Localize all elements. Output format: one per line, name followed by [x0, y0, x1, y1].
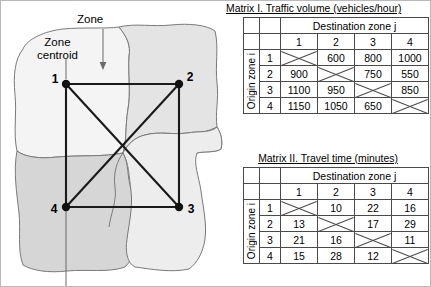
- matrix-1-cell: 650: [355, 98, 392, 114]
- matrix-1-row-label: 4: [260, 98, 281, 114]
- matrix-1-col-label: 3: [355, 34, 392, 50]
- matrix-1-origin-header: Origin zone i: [244, 50, 260, 114]
- zone-polygon-lower-left: [15, 151, 135, 272]
- matrix-1-origin-header-text: Origin zone i: [246, 53, 257, 109]
- node-1[interactable]: [62, 80, 70, 88]
- matrix-1-row-label: 2: [260, 66, 281, 82]
- matrix-1-cell: 1150: [281, 98, 318, 114]
- table-row: Origin zone i 1 600 800 1000: [244, 50, 429, 66]
- node-label-3: 3: [188, 202, 195, 216]
- matrix-2-cell: 16: [392, 200, 429, 216]
- matrix-2-destination-header: Destination zone j: [281, 168, 429, 184]
- matrix-2-diagonal-cell: [281, 200, 318, 216]
- matrix-2-cell: 11: [392, 232, 429, 248]
- matrix-2-col-index-row: 1 2 3 4: [244, 184, 429, 200]
- matrix-1-diagonal-cell: [392, 98, 429, 114]
- annotation-zone-centroid-label: Zone centroid: [37, 36, 78, 62]
- matrix-1-cell: 900: [281, 66, 318, 82]
- matrix-1-cell: 950: [318, 82, 355, 98]
- matrix-2-cell: 13: [281, 216, 318, 232]
- corner-blank: [244, 184, 260, 200]
- matrix-2-cell: 21: [281, 232, 318, 248]
- matrix-1-cell: 800: [355, 50, 392, 66]
- matrix-2-col-label: 2: [318, 184, 355, 200]
- matrix-1-col-header-row: Destination zone j: [244, 18, 429, 34]
- table-row: 4 15 28 12: [244, 248, 429, 264]
- matrix-1-cell: 1100: [281, 82, 318, 98]
- corner-blank: [260, 184, 281, 200]
- corner-blank: [244, 34, 260, 50]
- matrix-2-diagonal-cell: [355, 232, 392, 248]
- node-label-2: 2: [187, 70, 194, 84]
- corner-blank: [244, 18, 260, 34]
- matrix-2-cell: 17: [355, 216, 392, 232]
- matrix-1-col-index-row: 1 2 3 4: [244, 34, 429, 50]
- matrix-2-origin-header-text: Origin zone i: [246, 203, 257, 259]
- matrix-1-title: Matrix I. Traffic volume (vehicles/hour): [225, 3, 431, 14]
- matrix-2-cell: 22: [355, 200, 392, 216]
- matrix-1-col-label: 2: [318, 34, 355, 50]
- matrix-2-cell: 16: [318, 232, 355, 248]
- matrix-2-cell: 15: [281, 248, 318, 264]
- node-label-4: 4: [51, 202, 58, 216]
- matrix-2-col-label: 1: [281, 184, 318, 200]
- corner-blank: [260, 34, 281, 50]
- matrix-1-destination-header: Destination zone j: [281, 18, 429, 34]
- corner-blank: [244, 168, 260, 184]
- matrix-1-cell: 1000: [392, 50, 429, 66]
- matrix-1-row-label: 1: [260, 50, 281, 66]
- diagram-canvas: 1 2 3 4: [1, 1, 226, 287]
- table-row: 2 13 17 29: [244, 216, 429, 232]
- matrix-2-cell: 10: [318, 200, 355, 216]
- zone-network-diagram: 1 2 3 4 Zone Zone centroid: [1, 1, 226, 287]
- corner-blank: [260, 18, 281, 34]
- matrix-1-diagonal-cell: [281, 50, 318, 66]
- matrix-2-row-label: 4: [260, 248, 281, 264]
- matrix-travel-time: Matrix II. Travel time (minutes) Destina…: [225, 153, 431, 264]
- matrix-2-cell: 28: [318, 248, 355, 264]
- matrix-2-cell: 29: [392, 216, 429, 232]
- matrix-1-diagonal-cell: [318, 66, 355, 82]
- matrix-2-diagonal-cell: [392, 248, 429, 264]
- matrix-2-row-label: 2: [260, 216, 281, 232]
- matrix-2-col-label: 4: [392, 184, 429, 200]
- matrix-2-col-label: 3: [355, 184, 392, 200]
- node-2[interactable]: [175, 80, 183, 88]
- matrix-1-cell: 850: [392, 82, 429, 98]
- corner-blank: [260, 168, 281, 184]
- matrix-1-table: Destination zone j 1 2 3 4 Origin zone i…: [243, 17, 429, 114]
- matrix-traffic-volume: Matrix I. Traffic volume (vehicles/hour)…: [225, 3, 431, 114]
- matrix-1-row-label: 3: [260, 82, 281, 98]
- matrix-1-col-label: 4: [392, 34, 429, 50]
- annotation-zone-label: Zone: [77, 13, 103, 26]
- matrix-1-col-label: 1: [281, 34, 318, 50]
- matrix-2-row-label: 3: [260, 232, 281, 248]
- table-row: 3 1100 950 850: [244, 82, 429, 98]
- matrix-1-cell: 750: [355, 66, 392, 82]
- matrix-1-cell: 1050: [318, 98, 355, 114]
- matrix-2-cell: 12: [355, 248, 392, 264]
- node-label-1: 1: [52, 72, 59, 86]
- node-3[interactable]: [175, 203, 183, 211]
- matrix-1-cell: 550: [392, 66, 429, 82]
- matrix-2-row-label: 1: [260, 200, 281, 216]
- table-row: 2 900 750 550: [244, 66, 429, 82]
- matrix-2-table: Destination zone j 1 2 3 4 Origin zone i…: [243, 167, 429, 264]
- matrix-2-col-header-row: Destination zone j: [244, 168, 429, 184]
- matrix-1-cell: 600: [318, 50, 355, 66]
- table-row: Origin zone i 1 10 22 16: [244, 200, 429, 216]
- figure-root: 1 2 3 4 Zone Zone centroid Matrix I. Tra…: [0, 0, 431, 287]
- matrix-2-diagonal-cell: [318, 216, 355, 232]
- matrix-1-diagonal-cell: [355, 82, 392, 98]
- table-row: 3 21 16 11: [244, 232, 429, 248]
- table-row: 4 1150 1050 650: [244, 98, 429, 114]
- matrix-2-origin-header: Origin zone i: [244, 200, 260, 264]
- matrix-2-title: Matrix II. Travel time (minutes): [225, 153, 431, 164]
- node-4[interactable]: [62, 203, 70, 211]
